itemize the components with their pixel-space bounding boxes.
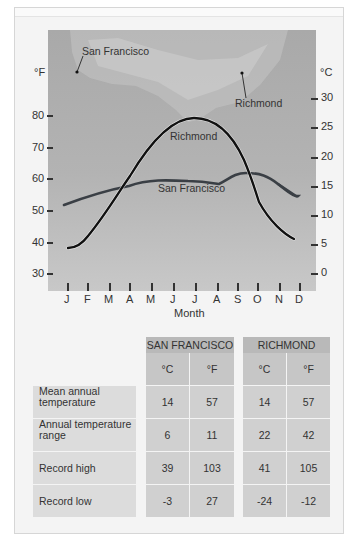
month-tick: N <box>275 293 283 305</box>
row-label-record-low: Record low <box>33 485 136 517</box>
c-tick: 10 <box>321 208 333 220</box>
curve-label-richmond: Richmond <box>170 130 217 142</box>
f-tick: 30 <box>32 267 44 279</box>
c-tick: 15 <box>321 179 333 191</box>
month-tick: S <box>234 293 241 305</box>
table-cell: 27 <box>190 485 234 517</box>
month-tick: A <box>126 293 133 305</box>
map-label-richmond: Richmond <box>235 97 282 109</box>
table-cell: 22 <box>243 419 286 451</box>
month-tick: M <box>104 293 113 305</box>
month-tick: J <box>64 293 70 305</box>
chart-svg <box>48 30 316 291</box>
table-cell: 14 <box>146 386 189 418</box>
city-header-richmond: RICHMOND <box>243 337 330 353</box>
plot-area <box>48 30 316 291</box>
table-cell: 14 <box>243 386 286 418</box>
city-header-sf: SAN FRANCISCO <box>146 337 234 353</box>
x-axis-title: Month <box>174 307 205 319</box>
month-tick: J <box>170 293 176 305</box>
month-tick: J <box>192 293 198 305</box>
c-tick: 0 <box>321 266 327 278</box>
f-tick: 70 <box>32 141 44 153</box>
unit-header: °F <box>190 353 234 385</box>
row-label-record-high: Record high <box>33 452 136 484</box>
month-tick: M <box>146 293 155 305</box>
table-cell: 103 <box>190 452 234 484</box>
unit-header: °C <box>243 353 286 385</box>
table-cell: 57 <box>287 386 330 418</box>
row-label-line: temperature <box>39 397 96 408</box>
f-tick: 40 <box>32 236 44 248</box>
table-cell: -12 <box>287 485 330 517</box>
month-tick: O <box>253 293 262 305</box>
table-cell: 57 <box>190 386 234 418</box>
c-tick: 20 <box>321 150 333 162</box>
frame-top-band <box>15 8 343 17</box>
table-cell: 6 <box>146 419 189 451</box>
c-tick: 5 <box>321 237 327 249</box>
curve-label-sf: San Francisco <box>158 182 225 194</box>
c-tick: 30 <box>321 91 333 103</box>
right-axis-unit: °C <box>320 66 332 78</box>
f-tick: 60 <box>32 172 44 184</box>
table-cell: 42 <box>287 419 330 451</box>
f-tick: 50 <box>32 204 44 216</box>
row-label-mean: Mean annual temperature <box>33 386 136 418</box>
table-cell: 39 <box>146 452 189 484</box>
table-cell: -24 <box>243 485 286 517</box>
table-cell: 41 <box>243 452 286 484</box>
month-tick: A <box>213 293 220 305</box>
map-label-sf: San Francisco <box>82 45 149 57</box>
row-label-range: Annual temperature range <box>33 419 136 451</box>
month-tick: D <box>295 293 303 305</box>
f-tick: 80 <box>32 109 44 121</box>
left-axis-unit: °F <box>34 66 45 78</box>
month-tick: F <box>84 293 91 305</box>
table-cell: -3 <box>146 485 189 517</box>
unit-header: °F <box>287 353 330 385</box>
unit-header: °C <box>146 353 189 385</box>
table-cell: 11 <box>190 419 234 451</box>
c-tick: 25 <box>321 120 333 132</box>
sf-temperature-line-end <box>278 184 296 196</box>
row-label-line: range <box>39 430 66 441</box>
table-cell: 105 <box>287 452 330 484</box>
